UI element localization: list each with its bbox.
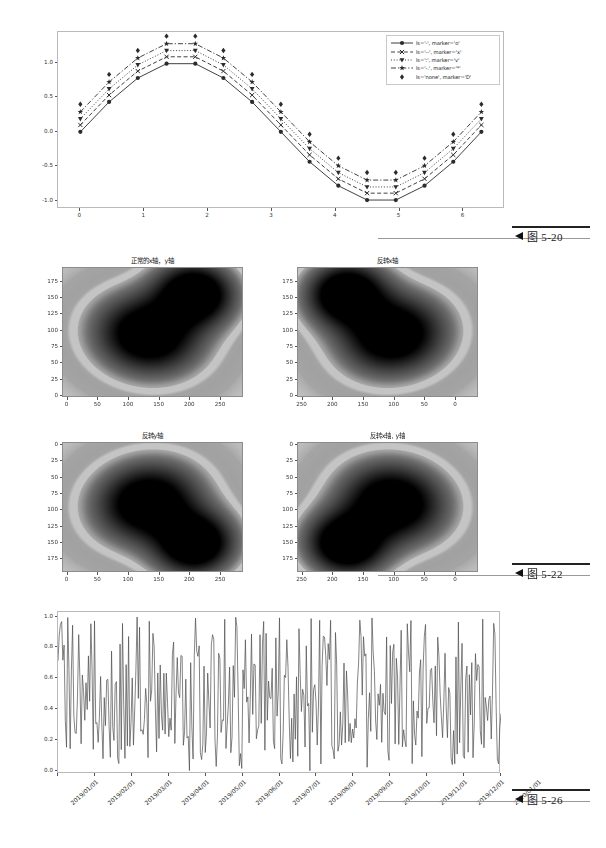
date-x-tick-label: 2019/03/01	[143, 778, 173, 806]
heatmap-y-tick-label: 75	[275, 490, 293, 496]
document-page: 0123456-1.0-0.50.00.51.0ls='-', marker='…	[0, 0, 606, 848]
heatmap-x-tickmark	[128, 397, 129, 400]
heatmap-x-tick-label: 100	[123, 576, 134, 582]
date-y-tickmark	[55, 646, 58, 647]
heatmap-y-tick-label: 0	[275, 441, 293, 447]
caption-图-5-22: 图 5-22	[515, 565, 563, 581]
heatmap-y-tick-label: 50	[275, 474, 293, 480]
heatmap-y-tickmark	[60, 297, 63, 298]
heatmap-x-tickmark	[220, 572, 221, 575]
heatmap-y-tick-label: 0	[40, 392, 58, 398]
date-x-tick-label: 2019/10/01	[401, 778, 431, 806]
date-y-tick-label: 0.8	[35, 643, 53, 649]
y-tickmark	[55, 131, 58, 132]
date-y-tick-label: 0.0	[35, 767, 53, 773]
heatmap-x-tickmark	[159, 572, 160, 575]
heatmap-y-tick-label: 25	[40, 457, 58, 463]
heatmap-y-tick-label: 175	[275, 278, 293, 284]
heatmap-x-tickmark	[332, 572, 333, 575]
heatmap-title: 正常的x轴，y轴	[131, 256, 175, 265]
date-x-tickmark	[131, 773, 132, 776]
heatmap-x-tickmark	[67, 572, 68, 575]
heatmap-title: 反转x轴, y轴	[370, 431, 406, 440]
heatmap-y-tickmark	[295, 477, 298, 478]
heatmap-y-tickmark	[295, 297, 298, 298]
heatmap-y-tickmark	[295, 526, 298, 527]
heatmap-x-tick-label: 0	[65, 401, 69, 407]
x-tickmark	[462, 208, 463, 211]
caption-arrow-icon	[515, 569, 523, 577]
heatmap-frame-heatmap-normal	[62, 267, 243, 397]
heatmap-x-tickmark	[394, 397, 395, 400]
heatmap-x-tick-label: 200	[184, 576, 195, 582]
x-tickmark	[335, 208, 336, 211]
legend-label: ls='-', marker='o'	[414, 40, 460, 46]
y-tickmark	[55, 165, 58, 166]
date-y-tickmark	[55, 739, 58, 740]
x-tick-label: 2	[205, 212, 209, 218]
legend-linestyle: ls='-', marker='o'ls='--', marker='x'ls=…	[386, 35, 500, 85]
caption-arrow-icon	[515, 232, 523, 240]
date-y-tick-label: 0.2	[35, 736, 53, 742]
legend-key-x	[390, 48, 414, 56]
legend-row[interactable]: ls='-', marker='o'	[390, 39, 495, 47]
x-tickmark	[79, 208, 80, 211]
heatmap-y-tick-label: 75	[40, 490, 58, 496]
y-tick-label: -1.0	[33, 197, 53, 203]
heatmap-y-tickmark	[60, 281, 63, 282]
heatmap-x-tickmark	[128, 572, 129, 575]
date-x-tickmark	[94, 773, 95, 776]
legend-key-*	[390, 64, 414, 72]
heatmap-y-tickmark	[60, 509, 63, 510]
heatmap-x-tick-label: 50	[94, 576, 101, 582]
heatmap-y-tickmark	[295, 509, 298, 510]
heatmap-x-tick-label: 200	[327, 576, 338, 582]
date-x-tick-label: 2019/04/01	[180, 778, 210, 806]
heatmap-y-tick-label: 175	[40, 555, 58, 561]
heatmap-x-tick-label: 0	[65, 576, 69, 582]
date-x-tickmark	[463, 773, 464, 776]
date-x-tick-label: 2019/08/01	[327, 778, 357, 806]
legend-row[interactable]: ls='--', marker='x'	[390, 47, 495, 55]
heatmap-x-tick-label: 250	[296, 576, 307, 582]
heatmap-x-tick-label: 150	[358, 576, 369, 582]
date-x-tickmark	[242, 773, 243, 776]
y-tickmark	[55, 62, 58, 63]
heatmap-y-tick-label: 150	[40, 539, 58, 545]
plot-area-date-series	[57, 611, 500, 773]
heatmap-y-tickmark	[60, 379, 63, 380]
date-x-tickmark	[352, 773, 353, 776]
date-y-tickmark	[55, 616, 58, 617]
heatmap-y-tickmark	[295, 542, 298, 543]
y-tickmark	[55, 200, 58, 201]
heatmap-y-tick-label: 75	[275, 343, 293, 349]
heatmap-y-tick-label: 150	[275, 539, 293, 545]
heatmap-x-tickmark	[363, 572, 364, 575]
heatmap-y-tickmark	[295, 379, 298, 380]
legend-row[interactable]: ls='-.', marker='*'	[390, 64, 495, 72]
heatmap-y-tickmark	[60, 346, 63, 347]
heatmap-y-tickmark	[60, 477, 63, 478]
heatmap-y-tickmark	[60, 395, 63, 396]
heatmap-x-tickmark	[159, 397, 160, 400]
legend-row[interactable]: ls='none', marker='D'	[390, 73, 495, 81]
x-tick-label: 3	[269, 212, 273, 218]
legend-row[interactable]: ls=':', marker='v'	[390, 56, 495, 64]
heatmap-title: 反转y轴	[142, 431, 164, 440]
heatmap-y-tick-label: 25	[275, 376, 293, 382]
heatmap-y-tick-label: 125	[40, 523, 58, 529]
heatmap-y-tick-label: 125	[275, 523, 293, 529]
heatmap-y-tickmark	[60, 493, 63, 494]
heatmap-frame-heatmap-flip-x	[297, 267, 478, 397]
date-series-layer	[58, 612, 501, 774]
heatmap-x-tickmark	[363, 397, 364, 400]
heatmap-y-tickmark	[60, 362, 63, 363]
heatmap-x-tick-label: 250	[215, 401, 226, 407]
heatmap-x-tick-label: 150	[153, 576, 164, 582]
y-tick-label: -0.5	[33, 162, 53, 168]
heatmap-y-tick-label: 150	[40, 294, 58, 300]
x-tickmark	[143, 208, 144, 211]
heatmap-y-tickmark	[295, 493, 298, 494]
caption-图-5-26: 图 5-26	[515, 791, 563, 807]
heatmap-y-tick-label: 125	[40, 310, 58, 316]
